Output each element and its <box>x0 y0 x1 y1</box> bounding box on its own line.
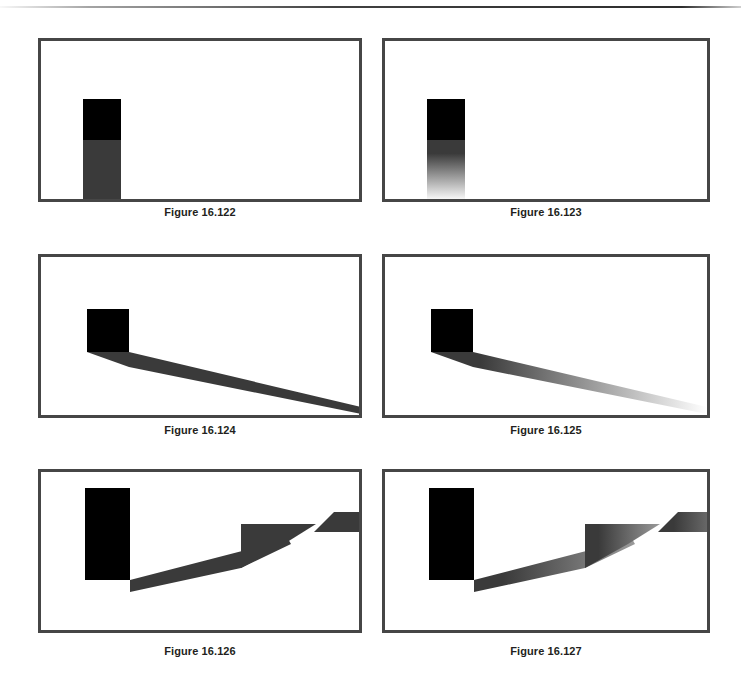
figure-caption: Figure 16.127 <box>382 645 710 657</box>
shadow-taper <box>431 352 707 414</box>
figure-cell: Figure 16.126 <box>38 469 362 665</box>
caster-box <box>87 309 129 352</box>
shadow-scene <box>385 41 707 199</box>
shadow-taper <box>87 352 361 414</box>
shadow-patch <box>658 512 710 532</box>
shadow-scene <box>41 257 359 415</box>
shadow-patch <box>314 512 362 532</box>
cast-shadow <box>83 140 121 199</box>
figure-panel <box>382 38 710 202</box>
figure-panel <box>38 254 362 418</box>
figure-cell: Figure 16.127 <box>382 469 710 665</box>
caster-box <box>85 488 130 580</box>
caster-box <box>83 99 121 140</box>
figure-caption: Figure 16.124 <box>38 424 362 436</box>
shadow-riser <box>585 524 660 568</box>
figure-panel <box>38 469 362 633</box>
figure-caption: Figure 16.126 <box>38 645 362 657</box>
figure-cell: Figure 16.125 <box>382 254 710 444</box>
figure-panel <box>38 38 362 202</box>
caster-box <box>431 309 473 352</box>
shadow-scene <box>41 472 359 630</box>
shadow-riser <box>241 524 316 568</box>
shadow-scene <box>41 41 359 199</box>
caster-box <box>429 488 474 580</box>
figure-cell: Figure 16.124 <box>38 254 362 444</box>
figure-panel <box>382 469 710 633</box>
shadow-scene <box>385 257 707 415</box>
caster-box <box>427 99 465 140</box>
figure-grid: Figure 16.122Figure 16.123Figure 16.124F… <box>0 0 741 673</box>
figure-panel <box>382 254 710 418</box>
figure-caption: Figure 16.123 <box>382 206 710 218</box>
figure-caption: Figure 16.122 <box>38 206 362 218</box>
shadow-scene <box>385 472 707 630</box>
figure-caption: Figure 16.125 <box>382 424 710 436</box>
figure-cell: Figure 16.123 <box>382 38 710 226</box>
figure-cell: Figure 16.122 <box>38 38 362 226</box>
cast-shadow <box>427 140 465 201</box>
